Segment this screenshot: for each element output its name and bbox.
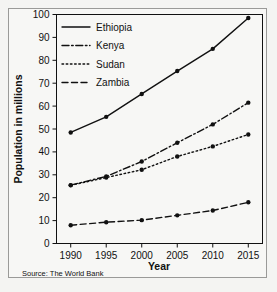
y-tick-label: 0 <box>44 238 50 249</box>
y-tick-label: 100 <box>33 9 50 20</box>
y-axis-ticks: 0102030405060708090100 <box>33 9 57 249</box>
legend-label-ethiopia: Ethiopia <box>96 22 133 33</box>
data-point-marker <box>104 115 108 119</box>
data-point-marker <box>140 159 144 163</box>
data-point-marker <box>175 69 179 73</box>
x-tick-label: 1995 <box>95 250 118 261</box>
data-point-marker <box>104 175 108 179</box>
y-tick-label: 50 <box>38 124 50 135</box>
chart-legend: EthiopiaKenyaSudanZambia <box>62 22 133 89</box>
y-tick-label: 30 <box>38 169 50 180</box>
y-tick-label: 80 <box>38 55 50 66</box>
x-axis-title: Year <box>148 260 170 272</box>
legend-label-kenya: Kenya <box>96 40 125 51</box>
x-tick-label: 1990 <box>60 250 83 261</box>
data-point-marker <box>246 100 250 104</box>
y-tick-label: 60 <box>38 101 50 112</box>
series-line-zambia <box>71 202 249 225</box>
y-tick-label: 70 <box>38 78 50 89</box>
data-point-marker <box>211 144 215 148</box>
data-point-marker <box>246 200 250 204</box>
series-line-sudan <box>71 135 249 186</box>
data-point-marker <box>175 141 179 145</box>
data-point-marker <box>69 130 73 134</box>
y-tick-label: 20 <box>38 192 50 203</box>
data-point-marker <box>175 213 179 217</box>
y-tick-label: 40 <box>38 146 50 157</box>
data-point-marker <box>69 183 73 187</box>
y-axis-title: Population in millions <box>12 74 24 183</box>
series-line-ethiopia <box>71 18 249 133</box>
data-point-marker <box>211 122 215 126</box>
source-note: Source: The World Bank <box>22 269 104 278</box>
figure-root: 0102030405060708090100 19901995200020052… <box>0 0 277 292</box>
plot-frame <box>57 15 263 244</box>
line-chart: 0102030405060708090100 19901995200020052… <box>0 0 277 292</box>
data-point-marker <box>246 16 250 20</box>
x-tick-label: 2005 <box>166 250 189 261</box>
legend-label-sudan: Sudan <box>96 59 125 70</box>
data-point-marker <box>211 208 215 212</box>
y-tick-label: 10 <box>38 215 50 226</box>
x-axis-ticks: 199019952000200520102015 <box>60 244 260 261</box>
data-point-marker <box>246 132 250 136</box>
data-point-marker <box>104 220 108 224</box>
data-point-marker <box>69 223 73 227</box>
data-point-marker <box>175 154 179 158</box>
x-tick-label: 2010 <box>202 250 225 261</box>
data-point-marker <box>140 218 144 222</box>
data-point-marker <box>140 168 144 172</box>
data-point-marker <box>211 47 215 51</box>
legend-label-zambia: Zambia <box>96 77 130 88</box>
x-tick-label: 2015 <box>237 250 260 261</box>
x-tick-label: 2000 <box>131 250 154 261</box>
y-tick-label: 90 <box>38 32 50 43</box>
data-point-marker <box>140 92 144 96</box>
